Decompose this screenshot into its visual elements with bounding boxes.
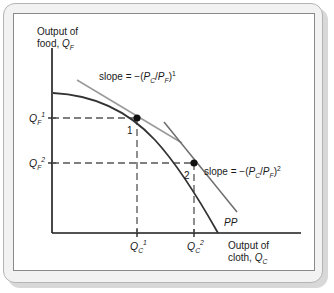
y-tick-1-sub: F xyxy=(37,119,42,126)
point-2-marker xyxy=(190,159,197,166)
y-axis-label-line2: food, QF xyxy=(37,38,75,51)
x-axis-label-line1: Output of xyxy=(228,240,269,251)
point-1-label: 1 xyxy=(127,125,133,136)
y-tick-2-sub: F xyxy=(37,164,42,171)
slope-1-annotation: slope = −(PC/PF)1 xyxy=(99,70,176,85)
x-tick-2-sup: 2 xyxy=(199,239,204,246)
x-tick-2-sub: C xyxy=(195,247,200,254)
y-tick-label-2: QF2 xyxy=(29,156,45,172)
point-2-label: 2 xyxy=(184,170,190,181)
slope-1-prefix: slope = −( xyxy=(99,71,144,82)
y-tick-label-1: QF1 xyxy=(29,111,45,127)
point-1-marker xyxy=(133,114,140,121)
figure-root: 1 2 Output of food, QF Output of cloth, … xyxy=(0,0,334,293)
slope-2-prefix: slope = −( xyxy=(204,166,249,177)
x-tick-2-var: Q xyxy=(187,240,195,252)
slope-1-sup: 1 xyxy=(172,70,176,77)
y-tick-2-var: Q xyxy=(29,157,37,169)
y-axis-label-line1: Output of xyxy=(37,26,78,37)
x-tick-label-2: QC2 xyxy=(187,239,204,255)
ppf-chart: 1 2 Output of food, QF Output of cloth, … xyxy=(0,0,334,293)
x-axis-label-sub: C xyxy=(262,258,267,265)
slope-2-annotation: slope = −(PC/PF)2 xyxy=(204,165,281,180)
x-axis-label-prefix: cloth, xyxy=(228,252,255,263)
y-tick-2-sup: 2 xyxy=(40,156,45,163)
x-tick-label-1: QC1 xyxy=(130,239,147,255)
y-axis-label-sub: F xyxy=(70,44,75,51)
y-axis-label-prefix: food, xyxy=(37,38,62,49)
x-tick-1-var: Q xyxy=(130,240,138,252)
x-tick-1-sup: 1 xyxy=(143,239,147,246)
x-axis-label-line2: cloth, QC xyxy=(228,252,267,265)
pp-curve-label: PP xyxy=(224,217,238,228)
x-tick-1-sub: C xyxy=(138,247,143,254)
slope-2-sup: 2 xyxy=(277,165,281,172)
y-tick-1-var: Q xyxy=(29,112,37,124)
y-tick-1-sup: 1 xyxy=(41,111,45,118)
